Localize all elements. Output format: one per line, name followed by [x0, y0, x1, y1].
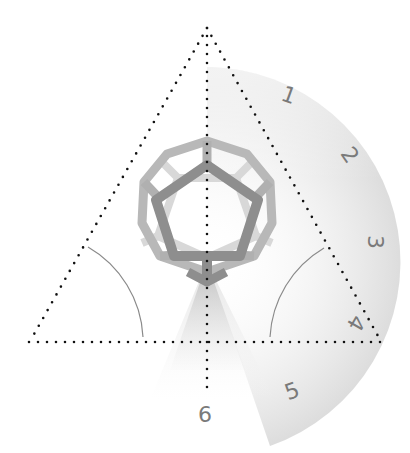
view-label-6: 6 — [198, 402, 212, 427]
left-angle-arc — [88, 247, 143, 337]
diagram-canvas: 1 2 3 4 5 6 — [0, 0, 410, 453]
view-label-3: 3 — [363, 235, 388, 249]
